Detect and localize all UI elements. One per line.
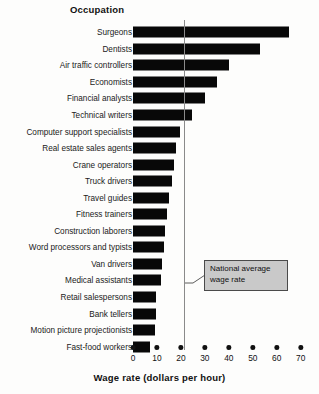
tick-dot	[227, 345, 232, 350]
bar-row-label: Financial analysts	[67, 94, 132, 103]
tick-label: 50	[248, 353, 257, 363]
tick-dot	[179, 345, 184, 350]
tick-label: 30	[200, 353, 209, 363]
tick-label: 10	[152, 353, 161, 363]
bar-row-label: Medical assistants	[65, 276, 132, 285]
bar-row-label: Computer support specialists	[26, 127, 132, 136]
bar	[133, 258, 162, 269]
bar-row-label: Bank tellers	[89, 309, 132, 318]
tick-label: 70	[296, 353, 305, 363]
bar	[133, 93, 205, 104]
bar-row-label: Motion picture projectionists	[31, 326, 132, 335]
page-title: Occupation	[70, 4, 124, 15]
bar	[133, 242, 164, 253]
bar	[133, 159, 174, 170]
tick-label: 40	[224, 353, 233, 363]
bar-row: Construction laborers	[0, 223, 319, 240]
x-axis-tick: 70	[296, 345, 305, 363]
bar-rows: SurgeonsDentistsAir traffic controllersE…	[0, 24, 319, 355]
bar-row-label: Dentists	[102, 44, 132, 53]
bar-row-label: Travel guides	[83, 193, 132, 202]
bar	[133, 325, 155, 336]
bar-row: Crane operators	[0, 156, 319, 173]
bar-row-label: Technical writers	[71, 111, 132, 120]
x-axis: 010203040506070	[0, 345, 319, 371]
tick-dot	[274, 345, 279, 350]
bar	[133, 209, 167, 220]
x-axis-title: Wage rate (dollars per hour)	[0, 372, 319, 383]
bar-row-label: Surgeons	[97, 28, 132, 37]
x-axis-tick: 10	[152, 345, 161, 363]
bar-row-label: Crane operators	[73, 160, 132, 169]
bar-row: Surgeons	[0, 24, 319, 41]
bar	[133, 292, 156, 303]
bar-row-label: Truck drivers	[85, 177, 132, 186]
bar-row-label: Economists	[90, 77, 132, 86]
bar	[133, 192, 169, 203]
bar	[133, 126, 180, 137]
bar-row-label: Word processors and typists	[29, 243, 132, 252]
tick-dot	[203, 345, 208, 350]
callout-leader-line	[185, 272, 205, 284]
tick-dot	[298, 345, 303, 350]
bar-row: Dentists	[0, 41, 319, 58]
callout-line-1: National average	[210, 264, 283, 275]
bar-row-label: Air traffic controllers	[60, 61, 132, 70]
bar-row: Word processors and typists	[0, 239, 319, 256]
tick-label: 60	[272, 353, 281, 363]
bar	[133, 176, 172, 187]
bar-row: Truck drivers	[0, 173, 319, 190]
bar-row: Travel guides	[0, 189, 319, 206]
bar-row: Economists	[0, 74, 319, 91]
bar	[133, 27, 289, 38]
bar-row-label: Construction laborers	[54, 226, 132, 235]
bar-row: Fitness trainers	[0, 206, 319, 223]
bar-row: Retail salespersons	[0, 289, 319, 306]
bar-row-label: Fitness trainers	[76, 210, 132, 219]
bar-row: Computer support specialists	[0, 123, 319, 140]
bar	[133, 76, 217, 87]
x-axis-tick: 20	[176, 345, 185, 363]
tick-dot	[155, 345, 160, 350]
bar	[133, 275, 161, 286]
tick-label: 0	[131, 353, 136, 363]
bar-row: Air traffic controllers	[0, 57, 319, 74]
x-axis-tick: 30	[200, 345, 209, 363]
x-axis-tick: 50	[248, 345, 257, 363]
x-axis-tick: 40	[224, 345, 233, 363]
tick-dot	[131, 345, 136, 350]
bar	[133, 60, 229, 71]
bar-chart: Occupation SurgeonsDentistsAir traffic c…	[0, 0, 319, 394]
bar	[133, 225, 165, 236]
x-axis-tick: 60	[272, 345, 281, 363]
bar-row: Bank tellers	[0, 305, 319, 322]
callout-line-2: wage rate	[210, 275, 283, 286]
national-average-callout: National average wage rate	[204, 260, 288, 291]
x-axis-tick: 0	[131, 345, 136, 363]
tick-label: 20	[176, 353, 185, 363]
national-average-reference-line	[184, 20, 185, 350]
bar	[133, 143, 176, 154]
bar-row-label: Van drivers	[91, 259, 132, 268]
bar-row: Technical writers	[0, 107, 319, 124]
bar	[133, 308, 156, 319]
bar-row: Motion picture projectionists	[0, 322, 319, 339]
bar	[133, 43, 260, 54]
bar-row: Real estate sales agents	[0, 140, 319, 157]
tick-dot	[250, 345, 255, 350]
bar-row-label: Real estate sales agents	[42, 144, 132, 153]
bar-row-label: Retail salespersons	[61, 293, 132, 302]
bar-row: Financial analysts	[0, 90, 319, 107]
